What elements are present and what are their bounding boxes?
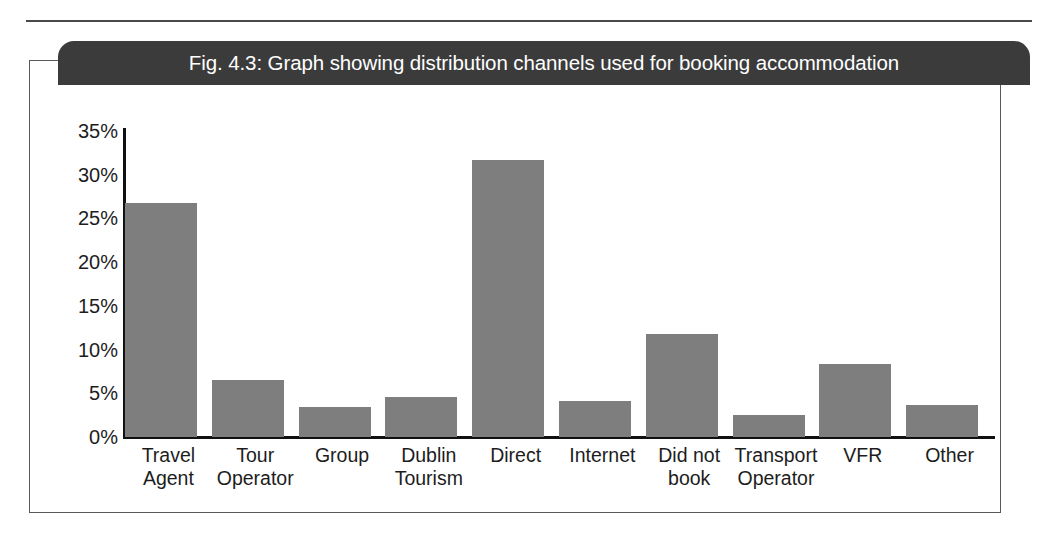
x-axis-label: Group <box>299 444 386 490</box>
x-axis-label: DublinTourism <box>385 444 472 490</box>
bar-slot <box>212 130 299 437</box>
x-axis-label: VFR <box>819 444 906 490</box>
top-divider-rule <box>26 20 1032 22</box>
bar-slot <box>819 130 906 437</box>
bar-slot <box>472 130 559 437</box>
x-axis-label: Direct <box>472 444 559 490</box>
bar-slot <box>125 130 212 437</box>
bar-slot <box>299 130 386 437</box>
bar[interactable] <box>299 407 371 437</box>
bar[interactable] <box>472 160 544 437</box>
x-axis-label: Did notbook <box>646 444 733 490</box>
bar-slot <box>906 130 993 437</box>
bar[interactable] <box>559 401 631 437</box>
x-axis-label: TourOperator <box>212 444 299 490</box>
bar[interactable] <box>906 405 978 437</box>
y-axis-tick-label: 35% <box>60 120 118 143</box>
y-axis-tick-label: 15% <box>60 294 118 317</box>
x-axis-category-labels: TravelAgent TourOperator Group DublinTou… <box>125 444 993 490</box>
bar-slot <box>385 130 472 437</box>
y-axis-tick-label: 10% <box>60 338 118 361</box>
bar[interactable] <box>819 364 891 437</box>
figure-caption-text: Fig. 4.3: Graph showing distribution cha… <box>189 51 899 76</box>
bar[interactable] <box>646 334 718 437</box>
bar[interactable] <box>385 397 457 437</box>
bar-slot <box>646 130 733 437</box>
x-axis-label: TransportOperator <box>733 444 820 490</box>
bar-series <box>125 130 993 437</box>
y-axis-tick-label: 20% <box>60 251 118 274</box>
x-axis-label: TravelAgent <box>125 444 212 490</box>
figure-caption-bar: Fig. 4.3: Graph showing distribution cha… <box>58 41 1030 85</box>
y-axis-tick-label: 0% <box>60 426 118 449</box>
y-axis-tick-labels: 35% 30% 25% 20% 15% 10% 5% 0% <box>56 0 118 551</box>
bar[interactable] <box>212 380 284 437</box>
bar[interactable] <box>733 415 805 437</box>
bar[interactable] <box>125 203 197 437</box>
y-axis-tick-label: 5% <box>60 382 118 405</box>
x-axis-label: Internet <box>559 444 646 490</box>
y-axis-tick-label: 25% <box>60 207 118 230</box>
y-axis-tick-label: 30% <box>60 163 118 186</box>
bar-slot <box>733 130 820 437</box>
x-axis-label: Other <box>906 444 993 490</box>
bar-slot <box>559 130 646 437</box>
